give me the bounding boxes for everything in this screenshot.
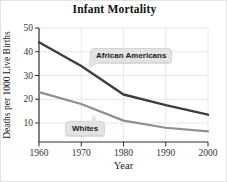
x-tick-label: 2000 [199, 148, 218, 158]
y-tick-label: 40 [24, 47, 34, 57]
y-tick-label: 20 [24, 94, 34, 104]
infant-mortality-chart: 102030405019601970198019902000YearDeaths… [1, 1, 227, 182]
x-axis-title: Year [114, 160, 134, 171]
y-tick-label: 10 [24, 118, 34, 128]
x-tick-label: 1990 [156, 148, 175, 158]
x-tick-label: 1970 [72, 148, 91, 158]
x-tick-label: 1980 [114, 148, 133, 158]
x-tick-label: 1960 [30, 148, 49, 158]
y-axis-title: Deaths per 1000 Live Births [2, 31, 12, 139]
whites-callout-label: Whites [65, 121, 105, 136]
infant-mortality-figure: Infant Mortality 10203040501960197019801… [0, 0, 227, 182]
y-tick-label: 30 [24, 71, 34, 81]
african-americans-callout-label: African Americans [90, 48, 172, 63]
y-tick-label: 50 [24, 23, 34, 33]
